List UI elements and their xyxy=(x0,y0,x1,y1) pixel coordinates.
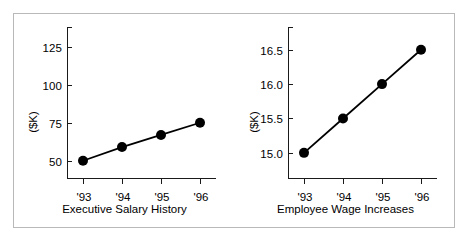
y-tick-mark: 50 xyxy=(67,161,72,162)
chart-panel-employee-wage-increases: ($K) 15.015.516.016.5 '93'94'95'96 Emplo… xyxy=(235,14,456,229)
y-tick-label: 125 xyxy=(43,42,63,54)
y-tick-label: 15.5 xyxy=(260,113,283,125)
y-tick-mark: 125 xyxy=(67,47,72,48)
y-tick-label: 75 xyxy=(49,118,62,130)
x-axis-title: Executive Salary History xyxy=(14,203,235,215)
x-tick-label: '96 xyxy=(415,191,430,203)
data-point-marker xyxy=(338,113,348,123)
data-point-marker xyxy=(195,118,205,128)
x-tick-label: '95 xyxy=(155,191,170,203)
chart-panel-executive-salary-history: ($K) 5075100125 '93'94'95'96 Executive S… xyxy=(14,14,235,229)
y-axis-title: ($K) xyxy=(248,111,260,133)
y-tick-mark: 100 xyxy=(67,85,72,86)
y-tick-mark: 16.5 xyxy=(288,50,293,51)
x-tick-label: '94 xyxy=(337,191,352,203)
x-tick-mark: '95 xyxy=(382,179,383,184)
y-axis-title: ($K) xyxy=(27,111,39,133)
y-tick-label: 50 xyxy=(49,156,62,168)
data-point-marker xyxy=(416,45,426,55)
series-line-right xyxy=(288,27,437,179)
x-tick-mark: '96 xyxy=(200,179,201,184)
series-line-left xyxy=(67,27,216,179)
y-tick-label: 15.0 xyxy=(260,148,283,160)
x-tick-label: '93 xyxy=(77,191,92,203)
y-tick-mark: 15.5 xyxy=(288,118,293,119)
y-tick-mark: 75 xyxy=(67,123,72,124)
x-tick-mark: '94 xyxy=(122,179,123,184)
y-tick-label: 16.0 xyxy=(260,79,283,91)
data-point-marker xyxy=(377,79,387,89)
y-tick-label: 100 xyxy=(43,80,63,92)
plot-area-right: 15.015.516.016.5 '93'94'95'96 xyxy=(288,27,437,179)
data-point-marker xyxy=(299,148,309,158)
x-tick-mark: '95 xyxy=(161,179,162,184)
x-tick-label: '95 xyxy=(376,191,391,203)
y-tick-mark: 15.0 xyxy=(288,153,293,154)
data-point-marker xyxy=(117,142,127,152)
data-point-marker xyxy=(156,130,166,140)
x-tick-mark: '94 xyxy=(343,179,344,184)
x-tick-label: '96 xyxy=(194,191,209,203)
figure-frame: ($K) 5075100125 '93'94'95'96 Executive S… xyxy=(13,13,455,228)
y-tick-mark: 16.0 xyxy=(288,84,293,85)
x-tick-mark: '93 xyxy=(83,179,84,184)
x-tick-label: '93 xyxy=(298,191,313,203)
plot-area-left: 5075100125 '93'94'95'96 xyxy=(67,27,216,179)
x-tick-mark: '93 xyxy=(304,179,305,184)
x-tick-mark: '96 xyxy=(421,179,422,184)
x-tick-label: '94 xyxy=(116,191,131,203)
y-tick-label: 16.5 xyxy=(260,45,283,57)
x-axis-title: Employee Wage Increases xyxy=(235,203,456,215)
data-point-marker xyxy=(78,156,88,166)
